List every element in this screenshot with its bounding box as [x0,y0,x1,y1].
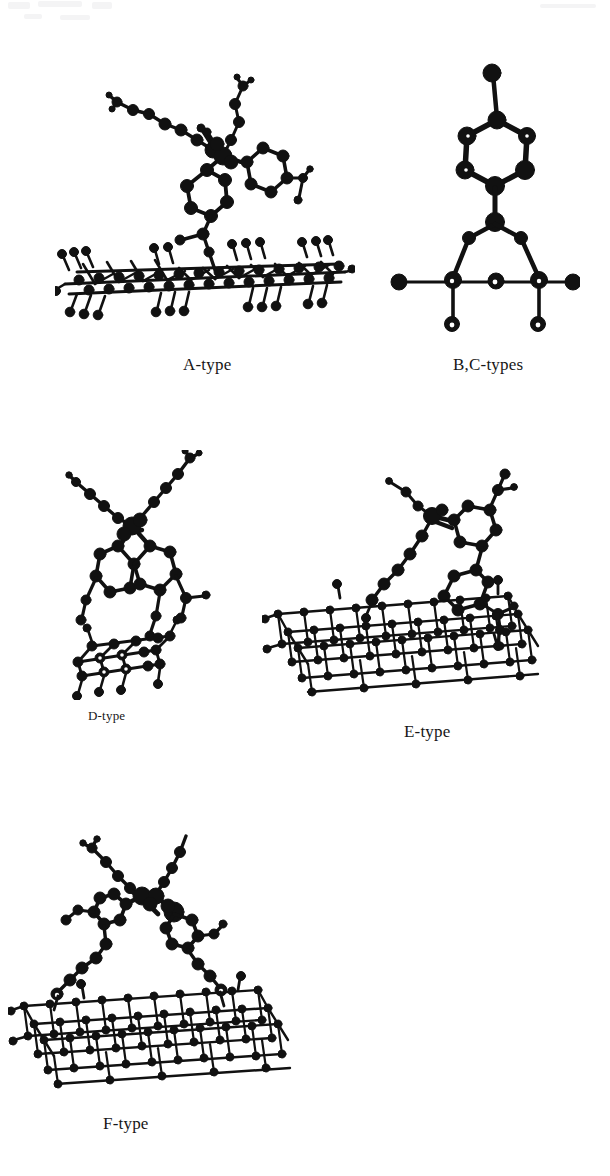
panel-bc-caption: B,C-types [453,355,523,375]
panel-d-structure [60,450,260,700]
scan-artifact [24,14,42,19]
scan-artifact [540,4,596,8]
panel-a-caption: A-type [183,355,231,375]
panel-f-caption: F-type [103,1114,149,1134]
panel-bc-structure [385,60,580,340]
scan-artifact [92,2,112,9]
scan-artifact [60,15,90,20]
panel-e-caption: E-type [404,722,451,742]
panel-f-structure [8,834,308,1104]
scan-artifact [8,2,30,9]
panel-a-structure [55,58,355,348]
scan-artifact [38,1,82,7]
panel-d-caption: D-type [88,708,125,724]
panel-e-structure [262,448,562,708]
figure-page: A-type [0,0,610,1176]
